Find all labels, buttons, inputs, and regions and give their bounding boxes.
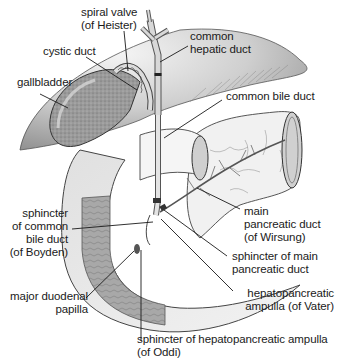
label-sphincter-common-bile-duct: sphincter of common bile duct (of Boyden… (6, 207, 68, 259)
label-line: papilla (4, 303, 88, 316)
label-line: common bile duct (226, 90, 315, 103)
ampulla (134, 215, 150, 254)
label-line: main (244, 205, 321, 218)
label-common-hepatic-duct: common hepatic duct (190, 30, 251, 56)
label-line: (of Boyden) (6, 246, 68, 259)
label-cystic-duct: cystic duct (43, 45, 96, 58)
label-line: cystic duct (43, 45, 96, 58)
label-line: pancreatic duct (232, 263, 318, 276)
label-sphincter-hepatopancreatic-ampulla: sphincter of hepatopancreatic ampulla (o… (137, 333, 328, 359)
biliary-anatomy-diagram: spiral valve (of Heister) common hepatic… (0, 0, 342, 363)
label-line: sphincter of hepatopancreatic ampulla (137, 333, 328, 346)
label-line: (of Wirsung) (244, 231, 321, 244)
label-sphincter-main-pancreatic-duct: sphincter of main pancreatic duct (232, 250, 318, 276)
label-line: gallbladder (17, 76, 72, 89)
label-line: major duodenal (4, 290, 88, 303)
label-spiral-valve: spiral valve (of Heister) (81, 6, 137, 32)
label-line: hepatic duct (190, 43, 251, 56)
label-line: sphincter of main (232, 250, 318, 263)
label-main-pancreatic-duct: main pancreatic duct (of Wirsung) (244, 205, 321, 244)
label-line: sphincter (6, 207, 68, 220)
label-line: (of Heister) (81, 19, 137, 32)
label-line: common (190, 30, 251, 43)
label-major-duodenal-papilla: major duodenal papilla (4, 290, 88, 316)
label-line: of common (6, 220, 68, 233)
label-hepatopancreatic-ampulla: hepatopancreatic ampulla (of Vater) (234, 287, 334, 313)
label-common-bile-duct: common bile duct (226, 90, 315, 103)
label-line: pancreatic duct (244, 218, 321, 231)
label-line: (of Oddi) (137, 346, 328, 359)
label-line: hepatopancreatic (234, 287, 334, 300)
label-line: bile duct (6, 233, 68, 246)
label-line: ampulla (of Vater) (234, 300, 334, 313)
label-gallbladder: gallbladder (17, 76, 72, 89)
label-line: spiral valve (81, 6, 137, 19)
